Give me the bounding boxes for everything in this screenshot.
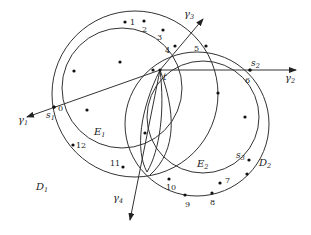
label-point-4: 4 [165, 46, 170, 55]
interior-point [85, 108, 88, 111]
label-point-10: 10 [166, 183, 176, 192]
label-gamma4: γ4 [113, 192, 123, 205]
point-2 [142, 19, 145, 22]
ray-gamma4 [130, 70, 160, 220]
label-gamma2: γ2 [285, 72, 295, 85]
label-point-12: 12 [76, 141, 86, 150]
point-6 [248, 68, 251, 71]
label-point-3: 3 [157, 33, 162, 42]
point-8 [210, 191, 213, 194]
label-point-8: 8 [210, 198, 215, 207]
point-t [158, 68, 161, 71]
point-0 [52, 105, 55, 108]
point-3 [161, 28, 164, 31]
interior-point [72, 69, 75, 72]
point-s3 [247, 158, 250, 161]
point-5 [204, 44, 207, 47]
interior-point [243, 115, 246, 118]
point-9 [183, 193, 186, 196]
point-10 [167, 177, 170, 180]
label-point-7: 7 [225, 176, 230, 185]
label-point-9: 9 [185, 200, 190, 209]
interior-point [143, 131, 146, 134]
label-e1: E1 [93, 126, 105, 139]
label-e2: E2 [196, 158, 208, 171]
label-point-5: 5 [194, 44, 199, 53]
label-point-0: 0 [58, 104, 63, 113]
diagram-svg: D1E1D2E2γ1γ2γ3γ4ts1s2s30123456789101112 [0, 0, 311, 235]
label-point-6: 6 [245, 76, 250, 85]
label-d1: D1 [35, 181, 48, 194]
circle-d1 [52, 11, 218, 177]
label-s3: s3 [236, 150, 245, 162]
interior-point [151, 68, 154, 71]
interior-point [245, 172, 248, 175]
point-12 [71, 143, 74, 146]
labels-group: D1E1D2E2γ1γ2γ3γ4ts1s2s30123456789101112 [18, 8, 295, 209]
label-gamma3: γ3 [184, 8, 194, 21]
interior-point [118, 60, 121, 63]
lens-left [141, 70, 162, 172]
label-s2: s2 [251, 58, 260, 70]
label-t: t [163, 72, 167, 82]
label-point-2: 2 [142, 25, 147, 34]
point-1 [123, 20, 126, 23]
point-7 [218, 181, 221, 184]
label-d2: D2 [258, 157, 271, 170]
circle-e1 [62, 28, 182, 148]
point-11 [121, 165, 124, 168]
label-point-11: 11 [110, 159, 120, 168]
point-4 [173, 44, 176, 47]
diagram-canvas: D1E1D2E2γ1γ2γ3γ4ts1s2s30123456789101112 [0, 0, 311, 235]
label-gamma1: γ1 [18, 114, 28, 127]
interior-point [216, 91, 219, 94]
label-point-1: 1 [130, 18, 135, 27]
